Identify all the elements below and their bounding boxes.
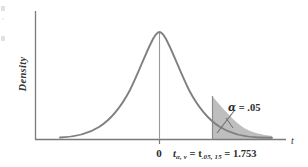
- t-distribution-figure: Density t 0 tα, ν = t.05, 15 = 1.753 α =…: [0, 0, 308, 167]
- critical-value-equals-t: = t: [187, 148, 202, 159]
- alpha-value: = .05: [236, 102, 260, 113]
- alpha-annotation: α = .05: [228, 101, 260, 113]
- alpha-symbol: α: [228, 101, 236, 113]
- critical-value-number: = 1.753: [222, 148, 257, 159]
- critical-value-subscript-alpha-nu: α, ν: [176, 153, 187, 160]
- critical-value-subscript-05-15: .05, 15: [202, 153, 222, 160]
- t-distribution-plot: [0, 0, 308, 167]
- density-curve: [60, 32, 272, 138]
- critical-value-label: tα, ν = t.05, 15 = 1.753: [173, 148, 257, 160]
- origin-tick-label: 0: [156, 147, 162, 159]
- y-axis-label: Density: [17, 57, 28, 92]
- x-axis-label: t: [291, 135, 294, 146]
